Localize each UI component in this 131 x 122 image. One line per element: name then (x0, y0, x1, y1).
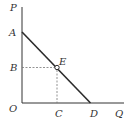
demand-diagram: P A B E O C D Q (0, 0, 131, 122)
point-b-label: B (9, 62, 17, 73)
x-axis-label: Q (115, 108, 123, 119)
origin-label: O (9, 103, 17, 114)
point-c-label: C (55, 108, 63, 119)
point-e-label: E (58, 56, 67, 67)
y-axis-label: P (9, 2, 17, 13)
point-a-label: A (8, 27, 16, 38)
point-d-label: D (89, 108, 98, 119)
